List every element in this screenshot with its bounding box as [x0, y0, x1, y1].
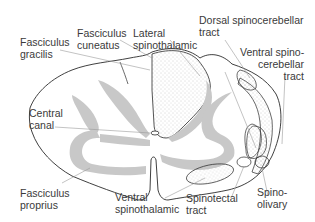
central-canal — [151, 131, 159, 135]
label-spinotectal-tract: Spinotectal tract — [186, 192, 238, 216]
label-ventral-spinocerebellar: Ventral spino- cerebellar tract — [240, 46, 304, 82]
label-fasciculus-cuneatus: Fasciculus cuneatus — [77, 27, 127, 51]
label-fasciculus-gracilis: Fasciculus gracilis — [20, 36, 70, 60]
label-dorsal-spinocerebellar: Dorsal spinocerebellar tract — [199, 14, 303, 38]
label-ventral-spinothalamic: Ventral spinothalamic — [115, 191, 179, 215]
spinal-cord-diagram: Fasciculus gracilis Fasciculus cuneatus … — [0, 0, 315, 222]
label-fasciculus-proprius: Fasciculus proprius — [20, 187, 70, 211]
label-central-canal: Central canal — [29, 107, 63, 131]
ventral-spinocerebellar-outline — [247, 126, 267, 159]
spino-olivary-oval-left — [237, 157, 251, 167]
spino-olivary-oval-right — [255, 156, 269, 168]
label-lateral-spinothalamic: Lateral spinothalamic — [133, 27, 197, 51]
label-spino-olivary: Spino- olivary — [257, 186, 287, 210]
